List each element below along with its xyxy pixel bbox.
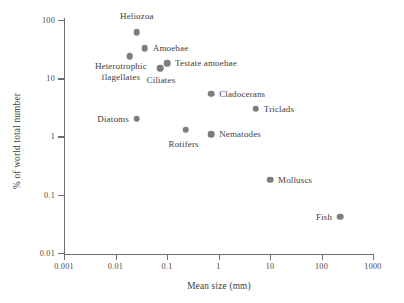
y-tick-label-100: 100 [42,16,55,25]
x-tick-label-1: 1 [216,262,220,271]
point-label-heliozoa: Heliozoa [120,11,154,22]
x-tick-label-1000: 1000 [364,262,381,271]
data-point-molluscs [267,176,274,183]
x-tick-0.01 [116,254,117,260]
point-label-cladocerans: Cladocerans [219,88,265,99]
data-point-heliozoa [134,29,141,36]
y-tick-label-0.1: 0.1 [44,190,55,199]
x-tick-label-0.1: 0.1 [162,262,173,271]
x-tick-label-0.01: 0.01 [108,262,123,271]
y-tick-0.1 [58,195,64,196]
x-tick-100 [322,254,323,260]
point-label-triclads: Triclads [264,103,294,114]
point-label-ciliates: Ciliates [147,74,176,85]
data-point-rotifers [182,126,189,133]
data-point-ciliates [157,65,164,72]
y-tick-10 [58,78,64,79]
y-tick-100 [58,20,64,21]
data-point-amoebae [141,45,148,52]
x-tick-label-10: 10 [266,262,275,271]
y-tick-label-1: 1 [51,132,55,141]
x-tick-1000 [373,254,374,260]
x-tick-10 [270,254,271,260]
data-point-cladocerans [208,90,215,97]
y-tick-label-10: 10 [46,74,55,83]
point-label-nematodes: Nematodes [219,128,261,139]
point-label-fish: Fish [316,211,332,222]
point-label-testate-amoebae: Testate amoebae [175,58,237,69]
y-tick-label-0.01: 0.01 [40,248,55,257]
x-tick-label-100: 100 [315,262,328,271]
data-point-nematodes [208,131,215,138]
x-tick-label-0.001: 0.001 [54,262,74,271]
y-axis-title: % of world total number [12,61,22,221]
x-tick-0.001 [64,254,65,260]
y-tick-1 [58,136,64,137]
point-label-diatoms: Diatoms [97,113,129,124]
point-label-heterotrophic: Heterotrophicflagellates [95,61,147,83]
data-point-testate-amoebae [164,60,171,67]
x-axis-title: Mean size (mm) [64,281,374,291]
point-label-molluscs: Molluscs [278,174,312,185]
y-axis-line [64,18,65,255]
x-tick-1 [219,254,220,260]
data-point-heterotrophic [127,53,134,60]
data-point-triclads [253,105,260,112]
data-point-fish [337,213,344,220]
x-tick-0.1 [167,254,168,260]
point-label-rotifers: Rotifers [169,138,199,149]
point-label-amoebae: Amoebae [153,43,189,54]
scatter-plot-figure: 1001010.10.01 0.0010.010.11101001000 Hel… [0,0,404,303]
data-point-diatoms [134,116,141,123]
